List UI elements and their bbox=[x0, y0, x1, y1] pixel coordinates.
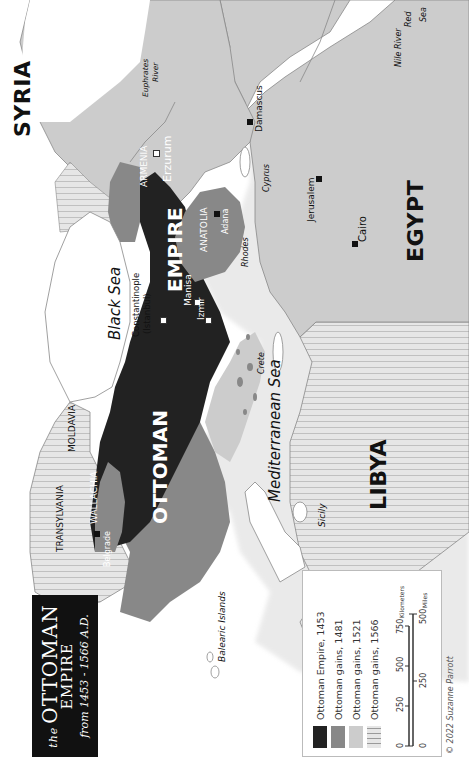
label-cyprus: Cyprus bbox=[263, 164, 271, 192]
label-cairo: Cairo bbox=[358, 216, 368, 242]
label-jerusalem: Jerusalem bbox=[307, 177, 316, 222]
label-black-sea: Black Sea bbox=[108, 267, 123, 340]
label-anatolia: ANATOLIA bbox=[200, 207, 209, 252]
label-egypt: EGYPT bbox=[405, 180, 427, 262]
label-sicily: Sicily bbox=[318, 504, 327, 528]
copyright-credit: © 2022 Suzanne Parrott bbox=[446, 656, 455, 754]
legend-swatch bbox=[349, 726, 363, 748]
label-euphrates-2: River bbox=[152, 63, 160, 82]
label-syria: SYRIA bbox=[12, 61, 34, 137]
balearic-2 bbox=[207, 652, 213, 662]
label-nile-river: Nile River bbox=[395, 28, 403, 67]
label-armenia: ARMENIA bbox=[140, 146, 149, 187]
label-red-sea-2: Sea bbox=[420, 7, 428, 22]
map-title: theOTTOMAN EMPIRE from 1453 - 1566 A.D. bbox=[32, 595, 98, 757]
label-izmir: Izmir bbox=[197, 298, 206, 320]
sicily bbox=[293, 502, 307, 522]
label-balearic: Balearic Islands bbox=[218, 591, 227, 662]
label-red-sea-1: Red bbox=[405, 11, 413, 27]
title-empire: EMPIRE bbox=[59, 595, 75, 757]
label-empire: EMPIRE bbox=[165, 207, 185, 292]
label-erzurum: Erzurum bbox=[162, 136, 173, 182]
label-transylvania: TRANSYLVANIA bbox=[56, 485, 65, 552]
marker-belgrade bbox=[94, 531, 100, 537]
title-subtitle: from 1453 - 1566 A.D. bbox=[78, 595, 91, 757]
marker-jerusalem bbox=[316, 176, 322, 182]
legend-swatch bbox=[367, 726, 381, 748]
label-euphrates-1: Euphrates bbox=[142, 59, 150, 97]
label-wallachia: WALLACHIA bbox=[90, 471, 99, 524]
legend: Ottoman Empire, 1453 Ottoman gains, 1481… bbox=[302, 570, 442, 757]
marker-damascus bbox=[247, 119, 253, 125]
label-adana: Adana bbox=[222, 209, 230, 234]
label-istanbul: (Istanbul) bbox=[143, 293, 152, 334]
marker-constantinople bbox=[160, 317, 167, 324]
legend-swatch bbox=[313, 726, 327, 748]
label-libya: LIBYA bbox=[368, 439, 390, 510]
marker-erzurum bbox=[153, 150, 160, 157]
marker-adana bbox=[214, 211, 220, 217]
label-crete: Crete bbox=[258, 352, 266, 374]
label-constantinople: Constantinople bbox=[132, 273, 141, 337]
legend-swatch bbox=[331, 726, 345, 748]
label-belgrade: Belgrade bbox=[104, 531, 112, 567]
label-damascus: Damascus bbox=[255, 85, 264, 132]
label-mediterranean: Mediterranean Sea bbox=[268, 359, 283, 502]
balearic-1 bbox=[211, 666, 219, 678]
label-ottoman: OTTOMAN bbox=[150, 410, 170, 524]
label-moldavia: MOLDAVIA bbox=[68, 405, 77, 452]
cyprus bbox=[240, 147, 250, 177]
map-canvas: theOTTOMAN EMPIRE from 1453 - 1566 A.D. … bbox=[0, 0, 469, 782]
marker-izmir bbox=[205, 317, 212, 324]
label-manisa: Manisa bbox=[184, 274, 193, 306]
label-rhodes: Rhodes bbox=[242, 237, 250, 267]
